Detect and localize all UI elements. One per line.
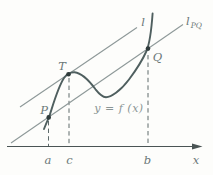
secant-line-label-main: l <box>186 14 190 28</box>
point-q-dot <box>146 46 151 51</box>
tangent-line-label: l <box>141 15 145 29</box>
tangent-line <box>20 28 137 108</box>
mvt-diagram: P T Q l lPQ y = f (x) a c b x <box>0 0 213 175</box>
point-t-label: T <box>58 59 67 73</box>
figure-canvas: P T Q l lPQ y = f (x) a c b x <box>0 0 213 175</box>
secant-line <box>11 25 183 144</box>
secant-line-label: lPQ <box>186 14 202 31</box>
x-axis-label: x <box>193 153 200 167</box>
secant-line-label-subscript: PQ <box>190 21 202 30</box>
point-t-dot <box>66 72 71 77</box>
x-axis-arrowhead-icon <box>192 143 203 149</box>
curve-equation-label: y = f (x) <box>93 102 143 115</box>
tick-label-a: a <box>45 153 52 167</box>
point-q-label: Q <box>153 50 163 64</box>
tick-label-c: c <box>66 153 73 167</box>
tick-label-b: b <box>144 153 151 167</box>
point-p-label: P <box>39 103 48 117</box>
